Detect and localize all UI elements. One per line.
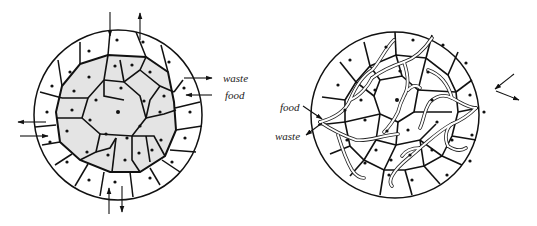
waste-label-left: waste [223, 72, 248, 84]
waste-label-right: waste [275, 130, 300, 142]
food-label-right: food [280, 101, 300, 113]
right-cell-mass: food waste [275, 32, 519, 198]
left-cell-mass: waste food [18, 12, 248, 214]
food-label-left: food [225, 89, 245, 101]
